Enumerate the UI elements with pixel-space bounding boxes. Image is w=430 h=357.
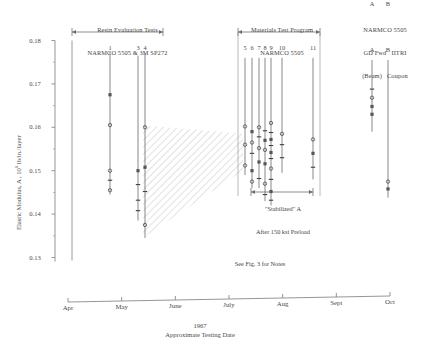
group-title-right-line1: NARMCO 5505 <box>340 26 430 34</box>
x-tick-label: Apr <box>54 304 82 311</box>
x-axis-label: Approximate Testing Date <box>130 331 270 338</box>
right-series-label-B: B <box>380 0 396 7</box>
group-title-middle: Materials Test Program NARMCO 5505 <box>222 11 342 72</box>
series-label-10: 10 <box>274 44 290 51</box>
series-point-square <box>250 130 253 133</box>
group-title-middle-line1: Materials Test Program <box>222 26 342 34</box>
y-axis-label-tail: lb/in./layer <box>15 135 22 165</box>
series-point-square <box>269 138 272 141</box>
right-series-point-square <box>370 105 373 108</box>
x-tick-label: Oct <box>376 298 404 305</box>
series-point-square <box>143 166 146 169</box>
stabilized-annotation: "Stabilized" A After 150 ksi Preload <box>228 190 338 251</box>
series-point-square <box>311 152 314 155</box>
group-title-left-line2: NARMCO 5505 & 3M SP272 <box>55 49 200 57</box>
right-series-point-square <box>370 113 373 116</box>
group-title-left-line1: Resin Evaluation Tests <box>55 26 200 34</box>
y-tick-label: 0.15 <box>20 167 50 174</box>
series-point-square <box>108 93 111 96</box>
x-tick-label: Aug <box>269 300 297 307</box>
series-point-square <box>269 151 272 154</box>
y-tick-label: 0.18 <box>20 37 50 44</box>
series-point-square <box>263 162 266 165</box>
x-tick-label: Sept <box>322 299 350 306</box>
right-series-label-A: A <box>364 0 380 7</box>
y-axis-label-exponent: 6 <box>14 166 19 168</box>
series-point-square <box>250 169 253 172</box>
y-tick-label: 0.14 <box>20 210 50 217</box>
x-tick-label: May <box>108 303 136 310</box>
x-tick-label: July <box>215 301 243 308</box>
right-col-label-b: B <box>380 46 396 53</box>
elastic-modulus-chart: Resin Evaluation Tests NARMCO 5505 & 3M … <box>0 0 430 357</box>
series-label-11: 11 <box>305 44 321 51</box>
stabilized-line2: After 150 ksi Preload <box>228 228 338 236</box>
series-point-square <box>136 169 139 172</box>
series-label-4: 4 <box>137 44 153 51</box>
group-title-right-line3: (Beam) Coupon <box>340 72 430 80</box>
x-axis-year: 1967 <box>155 322 245 329</box>
y-tick-label: 0.16 <box>20 123 50 130</box>
group-title-left: Resin Evaluation Tests NARMCO 5505 & 3M … <box>55 11 200 72</box>
right-col-label-a: A <box>364 46 380 53</box>
y-tick-label: 0.17 <box>20 80 50 87</box>
x-tick-label: June <box>161 302 189 309</box>
series-point-square <box>257 160 260 163</box>
right-series-point-square <box>386 187 389 190</box>
series-point-square <box>263 139 266 142</box>
series-label-1: 1 <box>102 44 118 51</box>
y-tick-label: 0.13 <box>20 254 50 261</box>
stabilized-line1: "Stabilized" A <box>228 205 338 213</box>
y-axis-label-main: Elastic Modulus, A , 10 <box>15 168 22 230</box>
see-figure-note: See Fig. 3 for Notes <box>195 260 325 268</box>
